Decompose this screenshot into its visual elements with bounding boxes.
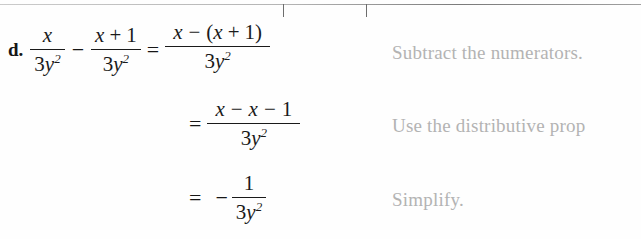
fraction-second-term: x+1 3y2 bbox=[91, 24, 141, 76]
fraction-bar bbox=[207, 123, 300, 125]
fraction-denominator: 3y2 bbox=[30, 52, 64, 76]
fraction-denominator: 3y2 bbox=[91, 52, 141, 76]
numerator-term-b: x bbox=[249, 97, 258, 121]
negative-sign: − bbox=[207, 185, 231, 211]
denominator-exponent: 2 bbox=[123, 51, 130, 66]
denominator-exponent: 2 bbox=[224, 48, 231, 63]
fraction-numerator: 1 bbox=[232, 172, 266, 196]
equals-sign: = bbox=[141, 37, 165, 63]
numerator-operator-2: − bbox=[258, 97, 282, 121]
denominator-variable: y bbox=[113, 52, 122, 76]
example-label: d. bbox=[8, 39, 30, 61]
fraction-result-line-1: x−(x+1) 3y2 bbox=[165, 21, 270, 73]
numerator-term-c: 1 bbox=[245, 20, 256, 44]
denominator-variable: y bbox=[251, 126, 260, 150]
denominator-exponent: 2 bbox=[256, 199, 263, 214]
denominator-exponent: 2 bbox=[54, 51, 61, 66]
fraction-numerator: x−(x+1) bbox=[165, 21, 270, 45]
fraction-denominator: 3y2 bbox=[207, 126, 300, 150]
annotation-line-2: Use the distributive prop bbox=[392, 115, 585, 137]
fraction-result-line-2: x−x−1 3y2 bbox=[207, 98, 300, 150]
top-scan-line bbox=[0, 4, 641, 5]
fraction-bar bbox=[232, 197, 266, 199]
numerator-term-c: 1 bbox=[282, 97, 293, 121]
fraction-numerator: x+1 bbox=[91, 24, 141, 48]
equation-line-3: = − 1 3y2 bbox=[183, 172, 266, 224]
equation-line-2: = x−x−1 3y2 bbox=[183, 98, 300, 150]
equals-sign: = bbox=[183, 185, 207, 211]
denominator-coefficient: 3 bbox=[204, 49, 215, 73]
fraction-denominator: 3y2 bbox=[232, 200, 266, 224]
denominator-variable: y bbox=[215, 49, 224, 73]
numerator-term-a: x bbox=[173, 20, 182, 44]
denominator-coefficient: 3 bbox=[236, 200, 247, 224]
equation-line-1: d. x 3y2 − x+1 3y2 = x−(x+1) 3y2 bbox=[8, 24, 270, 76]
fraction-bar bbox=[91, 49, 141, 51]
numerator-operator: − bbox=[225, 97, 249, 121]
numerator-term-a: x bbox=[215, 97, 224, 121]
numerator-operator-2: + bbox=[223, 20, 245, 44]
denominator-coefficient: 3 bbox=[34, 52, 45, 76]
fraction-result-line-3: 1 3y2 bbox=[232, 172, 266, 224]
numerator-operator: − bbox=[183, 20, 207, 44]
annotation-line-1: Subtract the numerators. bbox=[392, 42, 583, 64]
equals-sign: = bbox=[183, 111, 207, 137]
fraction-bar bbox=[30, 49, 64, 51]
denominator-exponent: 2 bbox=[261, 125, 268, 140]
fraction-numerator: x bbox=[30, 24, 64, 48]
fraction-numerator: x−x−1 bbox=[207, 98, 300, 122]
denominator-variable: y bbox=[246, 200, 255, 224]
numerator-operator: + bbox=[104, 23, 126, 47]
numerator-constant: 1 bbox=[126, 23, 137, 47]
denominator-variable: y bbox=[45, 52, 54, 76]
fraction-denominator: 3y2 bbox=[165, 49, 270, 73]
annotation-line-3: Simplify. bbox=[392, 189, 464, 211]
subtraction-operator: − bbox=[65, 37, 91, 63]
fraction-first-term: x 3y2 bbox=[30, 24, 64, 76]
fraction-bar bbox=[165, 46, 270, 48]
denominator-coefficient: 3 bbox=[241, 126, 252, 150]
bracket-tick-right bbox=[366, 4, 367, 17]
bracket-tick-left bbox=[283, 4, 284, 17]
numerator-term-b: x bbox=[213, 20, 222, 44]
denominator-coefficient: 3 bbox=[103, 52, 114, 76]
textbook-example-figure: d. x 3y2 − x+1 3y2 = x−(x+1) 3y2 Subtrac… bbox=[0, 0, 641, 239]
paren-close: ) bbox=[255, 20, 262, 44]
